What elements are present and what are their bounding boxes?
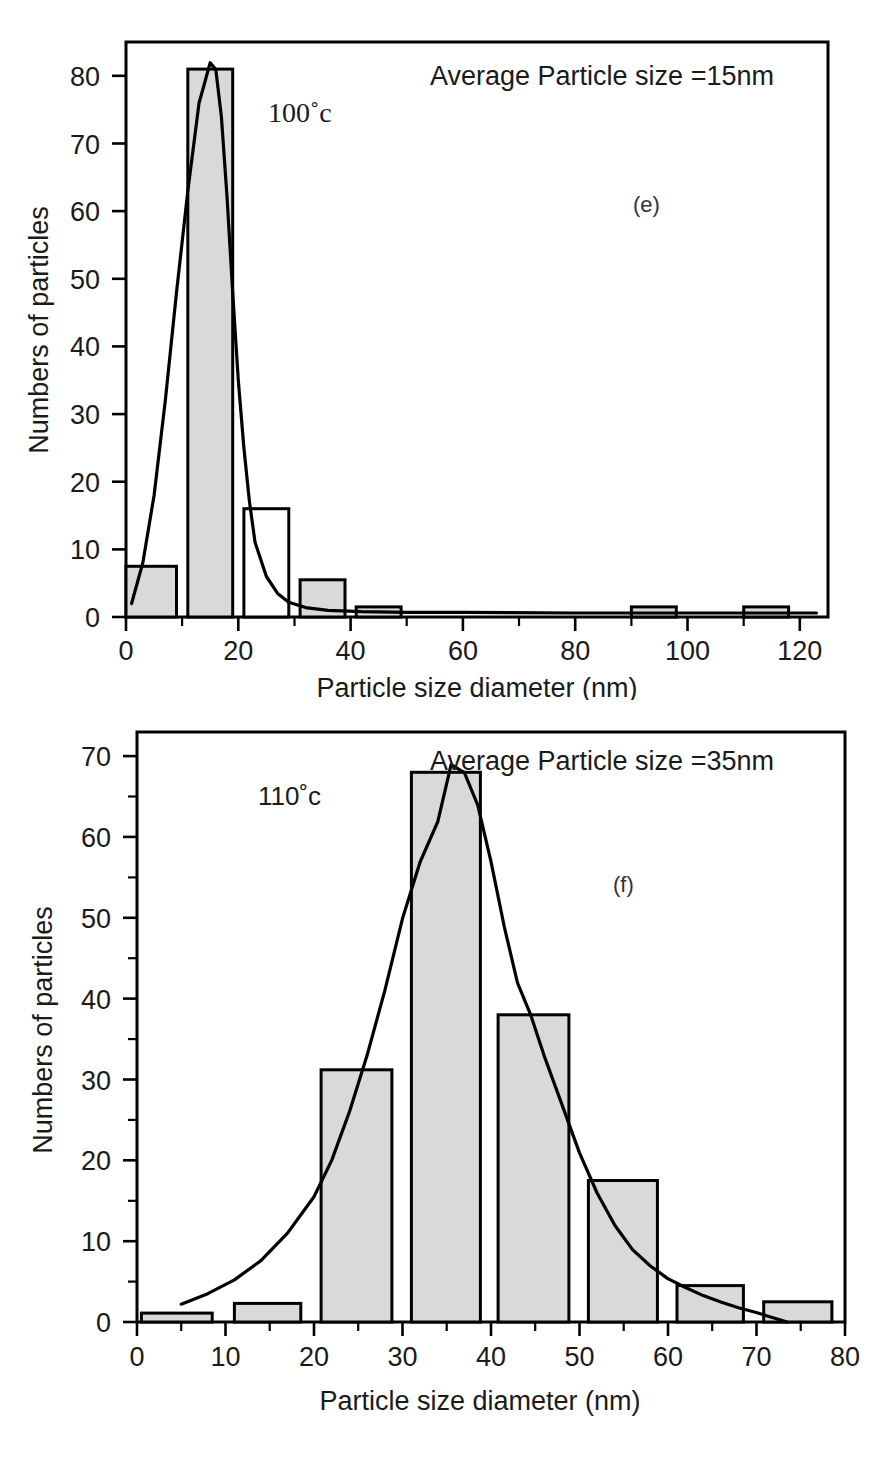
x-tick-label-e-0: 0 [118, 636, 133, 666]
x-tick-label-e-40: 40 [336, 636, 366, 666]
temperature-label-e: 100˚c [268, 97, 332, 128]
y-tick-label-e-80: 80 [70, 62, 100, 92]
panel-label-f: (f) [613, 872, 634, 897]
temperature-label-f: 110˚c [258, 781, 321, 811]
y-tick-label-f-0: 0 [96, 1308, 111, 1338]
x-tick-label-f-0: 0 [129, 1342, 144, 1372]
x-axis-ticks-f [137, 1322, 845, 1336]
x-tick-label-f-30: 30 [387, 1342, 417, 1372]
panel-label-e: (e) [633, 192, 660, 217]
bar-f-0 [141, 1313, 212, 1322]
y-tick-label-f-50: 50 [81, 904, 111, 934]
bar-f-4 [498, 1015, 569, 1322]
x-axis-title-e: Particle size diameter (nm) [316, 673, 637, 700]
y-axis-ticks-e [112, 76, 126, 617]
y-axis-title-e: Numbers of particles [24, 206, 54, 454]
bar-f-1 [234, 1303, 300, 1322]
chart-panel-f: 0 10 20 30 40 50 60 70 0 10 20 30 40 50 … [0, 700, 883, 1461]
chart-svg-f: 0 10 20 30 40 50 60 70 0 10 20 30 40 50 … [0, 700, 883, 1461]
y-tick-label-f-70: 70 [81, 742, 111, 772]
y-tick-label-f-40: 40 [81, 985, 111, 1015]
x-tick-label-e-80: 80 [560, 636, 590, 666]
plot-frame-f [137, 732, 845, 1322]
average-size-annotation-e: Average Particle size =15nm [430, 61, 774, 91]
x-tick-label-f-50: 50 [564, 1342, 594, 1372]
x-tick-label-e-60: 60 [448, 636, 478, 666]
x-tick-label-f-80: 80 [830, 1342, 860, 1372]
y-tick-label-e-20: 20 [70, 468, 100, 498]
x-axis-title-f: Particle size diameter (nm) [319, 1386, 640, 1416]
y-tick-label-e-70: 70 [70, 130, 100, 160]
y-tick-label-f-10: 10 [81, 1227, 111, 1257]
average-size-annotation-f: Average Particle size =35nm [430, 746, 774, 776]
y-tick-label-e-50: 50 [70, 265, 100, 295]
x-tick-label-f-60: 60 [653, 1342, 683, 1372]
x-tick-label-e-120: 120 [777, 636, 822, 666]
bar-f-6 [677, 1286, 743, 1322]
y-tick-label-f-60: 60 [81, 823, 111, 853]
x-tick-label-f-20: 20 [299, 1342, 329, 1372]
bar-e-1 [188, 69, 233, 617]
x-tick-label-f-10: 10 [210, 1342, 240, 1372]
y-tick-label-e-0: 0 [85, 603, 100, 633]
bar-f-5 [588, 1181, 657, 1323]
y-tick-label-e-40: 40 [70, 332, 100, 362]
y-tick-label-f-30: 30 [81, 1066, 111, 1096]
x-tick-label-e-100: 100 [665, 636, 710, 666]
y-axis-title-f: Numbers of particles [28, 906, 58, 1154]
x-tick-label-f-70: 70 [741, 1342, 771, 1372]
y-tick-label-e-10: 10 [70, 535, 100, 565]
x-tick-label-f-40: 40 [476, 1342, 506, 1372]
bar-e-2 [244, 509, 289, 617]
y-tick-label-f-20: 20 [81, 1146, 111, 1176]
x-axis-ticks-e [126, 617, 800, 631]
y-tick-label-e-60: 60 [70, 197, 100, 227]
chart-svg-e: 0 10 20 30 40 50 60 70 80 0 20 40 60 80 … [0, 0, 883, 700]
x-tick-label-e-20: 20 [223, 636, 253, 666]
particle-size-figure: 0 10 20 30 40 50 60 70 80 0 20 40 60 80 … [0, 0, 883, 1461]
bar-f-2 [321, 1070, 392, 1322]
chart-panel-e: 0 10 20 30 40 50 60 70 80 0 20 40 60 80 … [0, 0, 883, 700]
y-tick-label-e-30: 30 [70, 400, 100, 430]
